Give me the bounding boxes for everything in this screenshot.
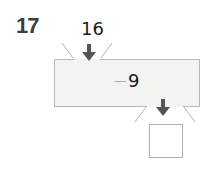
operation-label: −9 <box>113 71 140 91</box>
operand: 9 <box>128 70 139 91</box>
answer-box[interactable] <box>149 124 183 158</box>
operator: − <box>113 70 128 91</box>
arrow-down-icon <box>156 99 170 116</box>
arrow-down-icon <box>82 44 96 61</box>
